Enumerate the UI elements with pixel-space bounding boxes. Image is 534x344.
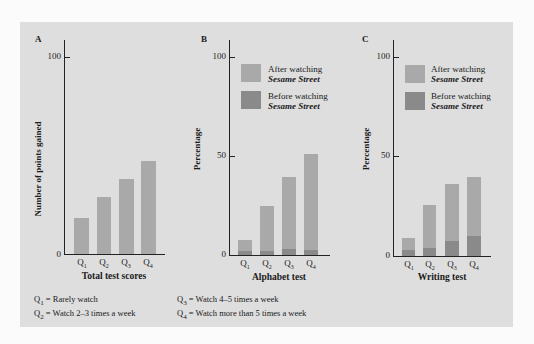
y-tick-0: 0	[366, 250, 390, 260]
bar-before-q1	[402, 250, 415, 256]
x-tick-q2: Q2	[259, 258, 275, 270]
legend-label-before: Before watchingSesame Street	[268, 91, 328, 111]
footnote-left: Q1 = Rarely watch Q2 = Watch 2–3 times a…	[34, 294, 135, 322]
x-tick-q3: Q3	[444, 259, 460, 271]
footnote-q2: Q2 = Watch 2–3 times a week	[34, 308, 135, 322]
bar-q2	[97, 197, 111, 254]
x-tick-q1: Q1	[74, 257, 90, 269]
legend-swatch-before	[405, 92, 425, 110]
bar-q1	[74, 218, 89, 254]
bar-q4	[304, 154, 318, 255]
bar-before-q1	[238, 251, 252, 255]
bar-q3	[119, 179, 134, 254]
y-axis-title: Number of points gained	[33, 114, 43, 224]
x-tick-q4: Q4	[466, 259, 482, 271]
bar-before-q4	[304, 250, 318, 255]
y-axis	[64, 40, 65, 255]
x-axis	[393, 256, 491, 257]
x-tick-q4: Q4	[303, 258, 319, 270]
footnote-q1: Q1 = Rarely watch	[34, 294, 135, 308]
y-axis-title: Percentage	[192, 119, 202, 179]
tick-mark	[394, 156, 399, 157]
y-tick-100: 100	[37, 51, 61, 61]
x-tick-q3: Q3	[281, 258, 297, 270]
y-axis	[393, 40, 394, 256]
bar-q3	[445, 184, 459, 256]
y-tick-0: 0	[37, 249, 61, 259]
legend-swatch-before	[241, 91, 261, 109]
bar-before-q2	[260, 251, 274, 255]
y-axis	[229, 40, 230, 255]
bar-before-q3	[282, 249, 296, 255]
panel-letter-c: C	[362, 34, 369, 44]
y-tick-100: 100	[366, 51, 390, 61]
y-tick-100: 100	[202, 51, 226, 61]
legend-label-after: After watchingSesame Street	[268, 64, 322, 84]
tick-mark	[394, 57, 399, 58]
panel-letter-b: B	[201, 34, 207, 44]
legend-swatch-after	[405, 65, 425, 83]
x-tick-q1: Q1	[237, 258, 253, 270]
footnote-q4: Q4 = Watch more than 5 times a week	[177, 308, 306, 322]
footnote-right: Q3 = Watch 4–5 times a week Q4 = Watch m…	[177, 294, 306, 322]
x-axis	[229, 255, 330, 256]
bar-before-q2	[423, 248, 436, 256]
y-tick-50: 50	[202, 150, 226, 160]
x-axis-title: Writing test	[392, 272, 492, 282]
panel-letter-a: A	[35, 34, 42, 44]
bar-q2	[260, 206, 274, 255]
tick-mark	[230, 57, 235, 58]
tick-mark	[65, 57, 70, 58]
bar-q3	[282, 177, 296, 255]
bar-q1	[402, 238, 415, 256]
legend-label-after: After watchingSesame Street	[431, 64, 485, 84]
y-axis-title: Percentage	[361, 119, 371, 179]
legend-swatch-after	[241, 64, 261, 82]
bar-before-q3	[445, 241, 459, 256]
x-axis	[64, 254, 165, 255]
bar-before-q4	[467, 236, 481, 256]
bar-q4	[141, 161, 156, 254]
bar-q2	[423, 205, 436, 256]
bar-q4	[467, 177, 481, 256]
tick-mark	[230, 156, 235, 157]
x-axis-title: Alphabet test	[229, 272, 329, 282]
x-tick-q2: Q2	[422, 259, 438, 271]
bar-q1	[238, 240, 252, 255]
y-tick-0: 0	[202, 249, 226, 259]
x-axis-title: Total test scores	[64, 271, 164, 281]
x-tick-q4: Q4	[140, 257, 156, 269]
x-tick-q1: Q1	[401, 259, 417, 271]
footnote-q3: Q3 = Watch 4–5 times a week	[177, 294, 306, 308]
x-tick-q3: Q3	[118, 257, 134, 269]
legend-label-before: Before watchingSesame Street	[431, 91, 491, 111]
x-tick-q2: Q2	[96, 257, 112, 269]
